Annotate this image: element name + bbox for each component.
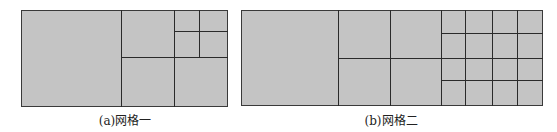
grid-a	[21, 10, 228, 107]
grid-line-vertical	[121, 10, 122, 107]
grid-line-horizontal	[441, 80, 543, 81]
grid-line-vertical	[174, 10, 175, 107]
grid-line-vertical	[199, 10, 200, 57]
grid-line-horizontal	[174, 31, 228, 32]
caption-b: (b)网格二	[364, 111, 417, 128]
grid-line-horizontal	[338, 58, 543, 59]
grid-line-horizontal	[441, 33, 543, 34]
caption-a: (a)网格一	[99, 111, 152, 128]
grid-line-horizontal	[121, 57, 228, 58]
